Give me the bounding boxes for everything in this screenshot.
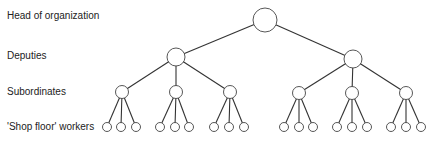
connector-line (176, 57, 230, 92)
subordinate-node (293, 87, 306, 100)
deputy-node (167, 48, 185, 66)
worker-node (103, 123, 112, 132)
org-tree (0, 0, 427, 141)
worker-node (387, 123, 396, 132)
worker-node (210, 123, 219, 132)
worker-node (240, 123, 249, 132)
connector-line (265, 20, 353, 59)
worker-node (225, 123, 234, 132)
worker-node (295, 123, 304, 132)
worker-node (280, 123, 289, 132)
worker-node (156, 123, 165, 132)
worker-node (117, 123, 126, 132)
head-node (253, 8, 277, 32)
worker-node (171, 123, 180, 132)
worker-node (185, 123, 194, 132)
worker-node (132, 123, 141, 132)
subordinate-node (346, 87, 359, 100)
worker-node (309, 123, 318, 132)
connector-line (122, 57, 176, 92)
worker-node (333, 123, 342, 132)
deputy-node (344, 50, 362, 68)
subordinate-node (400, 87, 413, 100)
worker-node (363, 123, 372, 132)
connector-line (299, 59, 353, 93)
worker-node (402, 123, 411, 132)
subordinate-node (116, 86, 129, 99)
worker-node (348, 123, 357, 132)
subordinate-node (170, 86, 183, 99)
subordinate-node (224, 86, 237, 99)
connector-line (176, 20, 265, 57)
worker-node (417, 123, 426, 132)
